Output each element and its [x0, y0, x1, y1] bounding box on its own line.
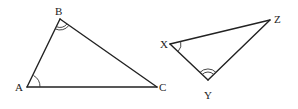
- triangle-xyz: [170, 20, 270, 80]
- angle-x-arc: [178, 41, 181, 51]
- triangles-figure: B A C X Z Y: [0, 0, 298, 109]
- vertex-label-x: X: [160, 38, 168, 50]
- vertex-label-y: Y: [204, 89, 212, 101]
- angle-a-arc: [34, 76, 41, 88]
- side-xz: [170, 20, 270, 44]
- side-xy: [170, 44, 208, 80]
- angle-y-arc-inner: [202, 72, 214, 74]
- side-yz: [208, 20, 270, 80]
- vertex-label-a: A: [15, 81, 23, 93]
- triangle-abc: [27, 19, 157, 87]
- vertex-label-z: Z: [274, 13, 281, 25]
- vertex-label-b: B: [55, 5, 62, 17]
- side-bc: [60, 19, 157, 87]
- diagram-canvas: B A C X Z Y: [0, 0, 298, 109]
- side-ab: [27, 19, 60, 87]
- vertex-label-c: C: [159, 81, 166, 93]
